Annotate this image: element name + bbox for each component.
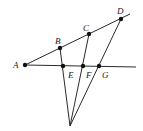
line-apex-C	[70, 34, 89, 126]
point-D	[119, 17, 123, 21]
line-apex-B	[60, 48, 70, 126]
label-D: D	[116, 6, 124, 16]
label-E: E	[67, 70, 74, 80]
point-B	[58, 46, 62, 50]
point-F	[81, 64, 85, 68]
label-B: B	[55, 36, 61, 46]
point-E	[61, 64, 65, 68]
label-G: G	[102, 70, 109, 80]
point-G	[97, 64, 101, 68]
geometry-diagram: ABCDEFG	[0, 0, 143, 131]
line-ray-AG	[25, 65, 136, 67]
label-C: C	[83, 23, 90, 33]
line-ray-AD	[25, 14, 130, 65]
label-F: F	[85, 70, 92, 80]
point-A	[23, 63, 27, 67]
line-apex-D	[70, 19, 121, 126]
label-A: A	[12, 60, 19, 70]
